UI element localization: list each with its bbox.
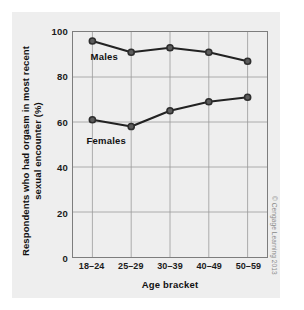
y-axis-title-line1: Respondents who had orgasm in most recen… bbox=[20, 46, 31, 256]
y-axis-title-line2: sexual encounter (%) bbox=[32, 102, 43, 200]
y-axis-tick-label: 80 bbox=[57, 71, 68, 82]
copyright-credit: © Cengage Learning 2013 bbox=[271, 196, 278, 300]
data-point bbox=[245, 94, 251, 100]
series-label-males: Males bbox=[91, 51, 118, 62]
data-point bbox=[167, 45, 173, 51]
data-point bbox=[128, 123, 134, 129]
x-axis-tick-label: 40–49 bbox=[196, 261, 222, 271]
data-point bbox=[206, 49, 212, 55]
x-axis-tick-label: 50–59 bbox=[236, 261, 262, 271]
data-point bbox=[245, 58, 251, 64]
y-axis-tick-label: 40 bbox=[57, 162, 68, 173]
series-label-females: Females bbox=[87, 135, 126, 146]
x-axis-tick-labels: 18–2425–2930–3940–4950–59 bbox=[72, 261, 268, 277]
data-point bbox=[167, 108, 173, 114]
data-point bbox=[128, 49, 134, 55]
x-axis-tick-label: 25–29 bbox=[118, 261, 144, 271]
data-point bbox=[89, 38, 95, 44]
y-axis-tick-label: 60 bbox=[57, 116, 68, 127]
y-axis-tick-label: 20 bbox=[57, 207, 68, 218]
x-axis-title: Age bracket bbox=[72, 279, 268, 290]
data-point bbox=[89, 117, 95, 123]
y-axis-tick-label: 0 bbox=[63, 253, 68, 264]
y-axis-tick-label: 100 bbox=[52, 26, 68, 37]
x-axis-tick-label: 18–24 bbox=[79, 261, 105, 271]
data-point bbox=[206, 99, 212, 105]
x-axis-tick-label: 30–39 bbox=[157, 261, 183, 271]
figure: 020406080100 Respondents who had orgasm … bbox=[0, 0, 304, 310]
y-axis-title: Respondents who had orgasm in most recen… bbox=[20, 38, 44, 264]
plot-area: Males Females bbox=[72, 31, 268, 258]
